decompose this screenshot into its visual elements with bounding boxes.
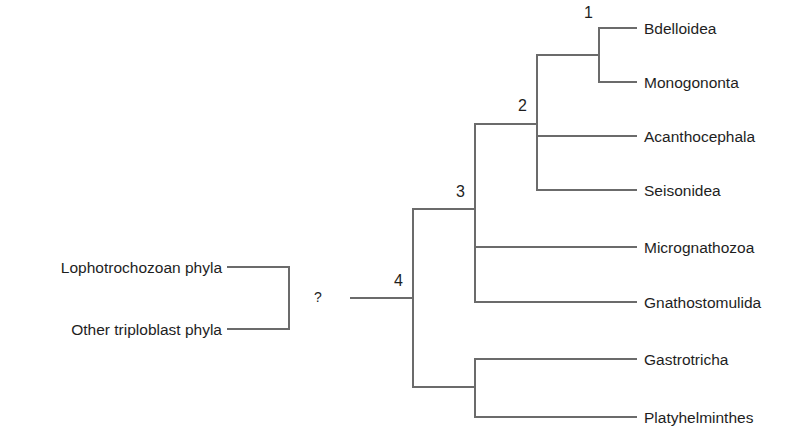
uncertain-link-label: ? <box>314 290 322 304</box>
outgroup-bracket <box>228 267 289 329</box>
node-label-2: 2 <box>518 98 527 114</box>
taxon-label: Platyhelminthes <box>644 410 753 426</box>
outgroup-label-lophotrochozoan: Lophotrochozoan phyla <box>61 260 222 276</box>
tree-lines <box>0 0 807 446</box>
taxon-label: Bdelloidea <box>644 21 716 37</box>
taxon-label: Acanthocephala <box>644 129 755 145</box>
taxon-label: Micrognathozoa <box>644 240 754 256</box>
node-label-3: 3 <box>456 184 465 200</box>
node-label-4: 4 <box>394 273 403 289</box>
outgroup-label-other-triploblast: Other triploblast phyla <box>71 322 222 338</box>
taxon-label: Gastrotricha <box>644 352 728 368</box>
taxon-label: Gnathostomulida <box>644 295 761 311</box>
node-label-1: 1 <box>584 5 593 21</box>
taxon-label: Monogononta <box>644 75 739 91</box>
taxon-label: Seisonidea <box>644 183 721 199</box>
